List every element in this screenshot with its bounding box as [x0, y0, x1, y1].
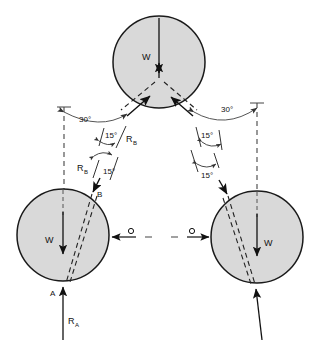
center-marks	[112, 228, 209, 237]
angle-15-right-lower-leg-a	[191, 150, 198, 172]
reaction-a-sub: A	[75, 322, 79, 328]
angle-15-right-lower-leg-b	[214, 153, 219, 168]
left-cylinder: W B A R A	[17, 178, 109, 340]
reaction-b-upper-label: R	[126, 134, 133, 144]
force-diagram: W 30° 30° 15°	[0, 0, 320, 348]
angle-15-left-lower-label: 15°	[103, 167, 115, 176]
angle-arc-30-left	[64, 112, 127, 122]
right-weight-label: W	[264, 238, 273, 248]
reaction-b-lower-label: R	[77, 163, 84, 173]
reaction-b-lower-sub: B	[84, 169, 88, 175]
reaction-b-lower-label-group: R B	[77, 163, 88, 175]
angle-30-right-label: 30°	[221, 105, 233, 114]
top-cylinder: W	[113, 16, 205, 108]
center-mark-left-circle	[128, 228, 133, 233]
right-reaction-ground-arrow	[256, 289, 262, 340]
diagram-canvas: W 30° 30° 15°	[0, 0, 320, 348]
point-a-label: A	[50, 289, 56, 298]
center-mark-right-circle	[189, 228, 194, 233]
reaction-b-upper-sub: B	[133, 140, 137, 146]
angle-15-left-lower-group: 15°	[93, 153, 118, 180]
angle-15-left-lower-leg-a	[93, 160, 99, 178]
left-weight-label: W	[45, 235, 54, 245]
angle-15-left-upper-group: 15°	[99, 126, 126, 148]
angle-15-left-upper-arc	[99, 141, 115, 145]
reaction-b-upper-label-group: R B	[126, 134, 137, 146]
angle-15-right-upper-leg-b	[219, 130, 222, 150]
right-reaction-contact-arrow	[219, 180, 227, 194]
point-b-label: B	[97, 190, 102, 199]
angle-15-right-upper-arc	[202, 142, 221, 146]
angle-15-right-upper-label: 15°	[201, 131, 213, 140]
angle-15-left-lower-arc	[94, 153, 112, 156]
top-weight-label: W	[142, 52, 151, 62]
angle-15-right-lower-arc	[197, 164, 216, 167]
angle-15-left-upper-leg-b	[116, 126, 126, 148]
reaction-a-label: R	[68, 316, 75, 326]
angle-15-left-upper-label: 15°	[105, 131, 117, 140]
angle-15-right-lower-group: 15°	[191, 150, 219, 180]
angle-30-left-label: 30°	[79, 115, 91, 124]
right-cylinder: W	[211, 180, 303, 340]
angle-15-right-upper-group: 15°	[196, 127, 222, 150]
angle-15-right-lower-label: 15°	[201, 171, 213, 180]
